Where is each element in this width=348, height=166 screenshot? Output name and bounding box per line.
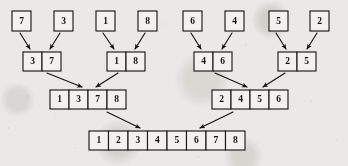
array-cell-value: 4 — [201, 56, 206, 66]
array-cell-value: 2 — [116, 135, 121, 145]
array-cell-value: 1 — [114, 56, 119, 66]
array-cell-value: 7 — [95, 94, 100, 104]
array-cell-value: 3 — [61, 16, 66, 26]
array-cell-value: 1 — [57, 94, 62, 104]
array-pairs-0: 37 — [23, 52, 61, 71]
array-pairs-3: 25 — [278, 52, 316, 71]
array-cell-value: 6 — [190, 16, 195, 26]
array-singletons-0: 7 — [12, 11, 31, 31]
array-quads-1: 2456 — [212, 90, 288, 109]
level-sorted: 12345678 — [89, 131, 245, 150]
array-cell-value: 5 — [257, 94, 262, 104]
merge-sort-diagram: 73186452371846251378245612345678 — [0, 0, 348, 166]
array-cell-value: 2 — [219, 94, 224, 104]
array-cell-value: 4 — [155, 135, 160, 145]
merge-arrows-group — [20, 33, 317, 128]
array-cell-value: 3 — [135, 135, 140, 145]
array-cell-value: 1 — [96, 135, 101, 145]
array-cell-value: 8 — [233, 135, 238, 145]
arrow-pair18-to-quad1378 — [96, 73, 118, 87]
array-cell-value: 4 — [238, 94, 243, 104]
level-pairs: 37184625 — [23, 52, 316, 71]
array-cell-value: 8 — [145, 16, 150, 26]
array-cell-value: 6 — [194, 135, 199, 145]
arrow-2-to-pair-25 — [307, 33, 317, 49]
array-singletons-2: 1 — [96, 11, 115, 31]
array-cell-value: 7 — [19, 16, 24, 26]
diagram-canvas: 73186452371846251378245612345678 — [0, 0, 348, 166]
array-cell-value: 7 — [49, 56, 54, 66]
array-quads-0: 1378 — [50, 90, 126, 109]
array-singletons-4: 6 — [183, 11, 202, 31]
arrow-6-to-pair-46 — [191, 33, 201, 49]
arrow-5-to-pair-25 — [276, 33, 286, 49]
array-cell-value: 6 — [220, 56, 225, 66]
arrow-7-to-pair-37 — [20, 33, 30, 49]
array-cell-value: 2 — [317, 16, 322, 26]
array-levels-group: 73186452371846251378245612345678 — [12, 11, 329, 150]
arrow-pair25-to-quad2456 — [263, 73, 285, 87]
array-pairs-1: 18 — [107, 52, 145, 71]
array-cell-value: 5 — [304, 56, 309, 66]
array-cell-value: 8 — [133, 56, 138, 66]
arrow-4-to-pair-46 — [222, 33, 232, 49]
array-singletons-3: 8 — [138, 11, 157, 31]
array-cell-value: 5 — [174, 135, 179, 145]
level-quads: 13782456 — [50, 90, 288, 109]
array-singletons-6: 5 — [269, 11, 288, 31]
array-cell-value: 3 — [76, 94, 81, 104]
array-singletons-7: 2 — [310, 11, 329, 31]
arrow-3-to-pair-37 — [50, 33, 60, 49]
array-cell-value: 8 — [114, 94, 119, 104]
array-cell-value: 2 — [285, 56, 290, 66]
array-pairs-2: 46 — [194, 52, 232, 71]
arrow-pair37-to-quad1378 — [47, 73, 82, 87]
array-cell-value: 7 — [213, 135, 218, 145]
arrow-pair46-to-quad2456 — [215, 73, 247, 87]
array-singletons-1: 3 — [54, 11, 73, 31]
array-cell-value: 1 — [103, 16, 108, 26]
array-cell-value: 6 — [276, 94, 281, 104]
level-singletons: 73186452 — [12, 11, 329, 31]
array-singletons-5: 4 — [225, 11, 244, 31]
array-sorted-0: 12345678 — [89, 131, 245, 150]
array-cell-value: 3 — [30, 56, 35, 66]
arrow-quad2456-to-sorted — [200, 112, 233, 128]
array-cell-value: 5 — [276, 16, 281, 26]
arrow-quad1378-to-sorted — [107, 112, 140, 128]
arrow-8-to-pair-18 — [135, 33, 145, 49]
array-cell-value: 4 — [232, 16, 237, 26]
arrow-1-to-pair-18 — [103, 33, 114, 49]
